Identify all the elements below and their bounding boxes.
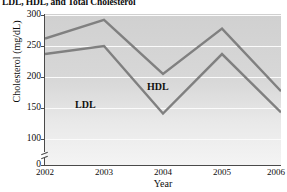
x-axis-title: Year <box>45 178 281 189</box>
x-tick-label-2003: 2003 <box>84 167 124 177</box>
y-axis-stub <box>44 158 45 165</box>
y-tick-mark-0 <box>41 165 44 166</box>
x-tick-label-2005: 2005 <box>202 167 242 177</box>
series-label-hdl: HDL <box>147 81 169 92</box>
y-tick-mark-250 <box>41 46 44 47</box>
cholesterol-line-chart: LDL, HDL, and Total Cholesterol Choleste… <box>0 0 287 192</box>
y-tick-label-100: 100 <box>1 134 41 144</box>
y-axis-ticks: 300 250 200 150 100 0 <box>0 0 41 192</box>
y-tick-mark-200 <box>41 77 44 78</box>
y-tick-label-200: 200 <box>1 72 41 82</box>
series-label-ldl: LDL <box>75 99 96 110</box>
x-tick-label-2004: 2004 <box>143 167 183 177</box>
y-tick-mark-100 <box>41 139 44 140</box>
y-tick-mark-150 <box>41 108 44 109</box>
y-axis-line <box>44 14 45 152</box>
y-tick-mark-300 <box>41 15 44 16</box>
y-tick-label-250: 250 <box>1 41 41 51</box>
x-tick-label-2002: 2002 <box>25 167 65 177</box>
x-axis-line <box>44 165 281 166</box>
y-tick-label-300: 300 <box>1 10 41 20</box>
y-tick-label-150: 150 <box>1 103 41 113</box>
x-tick-label-2006: 2006 <box>256 167 287 177</box>
